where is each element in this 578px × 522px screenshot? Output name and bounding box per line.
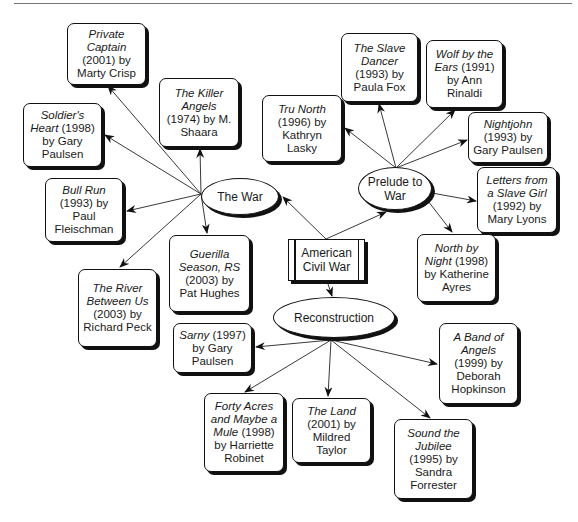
book-author: Gary Paulsen	[473, 144, 543, 156]
book-year: (1974) by M.	[167, 113, 232, 125]
book-soldiers-heart: Soldier's Heart (1998) by Gary Paulsen	[23, 103, 102, 167]
book-author: by Ann Rinaldi	[447, 74, 482, 99]
theme-label: The War	[217, 190, 263, 204]
book-year: (1996) by	[278, 116, 327, 128]
book-author: by Harriette Robinet	[214, 439, 273, 464]
book-year: (1992) by	[493, 200, 542, 212]
book-tru-north: Tru North (1996) by Kathryn Lasky	[262, 95, 342, 162]
book-title: The Killer Angels	[175, 87, 224, 112]
book-title: Bull Run	[62, 184, 105, 196]
book-year: (1998)	[62, 122, 95, 134]
book-title: The River Between Us	[86, 282, 148, 307]
book-sarny: Sarny (1997) by Gary Paulsen	[173, 323, 252, 373]
book-guerilla-season: Guerilla Season, RS (2003) by Pat Hughes	[169, 235, 250, 312]
center-topic-american-civil-war: American Civil War	[288, 239, 365, 281]
book-a-band-of-angels: A Band of Angels (1999) by Deborah Hopki…	[439, 323, 518, 404]
book-author: by Katherine Ayres	[424, 268, 489, 293]
book-year: (2001) by	[307, 418, 356, 430]
book-author: Shaara	[180, 126, 217, 138]
theme-prelude-to-war: Prelude to War	[358, 167, 432, 210]
book-author: by Gary Paulsen	[192, 342, 234, 367]
book-slave-dancer: The Slave Dancer (1993) by Paula Fox	[341, 33, 418, 102]
book-title: Sarny	[179, 329, 209, 341]
book-title: Letters from a Slave Girl	[486, 174, 547, 199]
book-title: Nightjohn	[484, 118, 533, 130]
book-private-captain: Private Captain (2001) by Marty Crisp	[67, 23, 146, 85]
book-title: Guerilla Season, RS	[179, 248, 240, 273]
book-author: Deborah Hopkinson	[451, 370, 505, 395]
book-nightjohn: Nightjohn (1993) by Gary Paulsen	[468, 112, 548, 163]
book-author: Paul Fleischman	[55, 210, 114, 235]
book-author: Mary Lyons	[487, 213, 546, 225]
book-letters-from-a-slave-girl: Letters from a Slave Girl (1992) by Mary…	[477, 167, 557, 233]
book-title: Sound the Jubilee	[407, 427, 459, 452]
book-year: (1993) by	[484, 131, 533, 143]
book-wolf-by-the-ears: Wolf by the Ears (1991) by Ann Rinaldi	[426, 40, 503, 108]
book-year: (1998)	[455, 255, 488, 267]
book-title: The Slave Dancer	[354, 42, 406, 67]
theme-label: Reconstruction	[294, 311, 374, 325]
book-author: Mildred Taylor	[313, 431, 351, 456]
center-label-line2: Civil War	[301, 260, 352, 274]
book-year: (1993) by	[355, 68, 404, 80]
book-killer-angels: The Killer Angels (1974) by M. Shaara	[159, 78, 239, 147]
book-forty-acres: Forty Acres and Maybe a Mule (1998) by H…	[204, 393, 284, 472]
book-year: (1999) by	[454, 357, 503, 369]
book-title: A Band of Angels	[453, 331, 503, 356]
book-year: (1993) by	[60, 197, 109, 209]
book-author: Paula Fox	[354, 81, 406, 93]
theme-the-war: The War	[201, 178, 279, 215]
theme-reconstruction: Reconstruction	[273, 297, 395, 338]
book-year: (2003) by	[185, 274, 234, 286]
book-author: Kathryn Lasky	[282, 129, 322, 154]
center-label-line1: American	[301, 246, 352, 260]
book-year: (1998)	[241, 426, 274, 438]
book-author: by Gary Paulsen	[42, 135, 84, 160]
book-year: (1991)	[461, 61, 494, 73]
book-year: (1995) by	[409, 453, 458, 465]
book-bull-run: Bull Run (1993) by Paul Fleischman	[45, 178, 123, 242]
book-author: Marty Crisp	[77, 67, 136, 79]
theme-label-line2: War	[368, 189, 423, 203]
book-title: Private Captain	[87, 28, 127, 53]
book-author: Richard Peck	[83, 321, 151, 333]
book-river-between-us: The River Between Us (2003) by Richard P…	[78, 269, 157, 347]
book-author: Pat Hughes	[179, 287, 239, 299]
book-year: (1997)	[213, 329, 246, 341]
theme-label-line1: Prelude to	[368, 175, 423, 189]
book-title: Tru North	[278, 103, 326, 115]
book-north-by-night: North by Night (1998) by Katherine Ayres	[417, 234, 496, 302]
book-title: The Land	[307, 405, 356, 417]
book-year: (2001) by	[82, 54, 131, 66]
book-author: Sandra Forrester	[410, 466, 457, 491]
book-sound-the-jubilee: Sound the Jubilee (1995) by Sandra Forre…	[394, 419, 473, 499]
book-year: (2003) by	[93, 308, 142, 320]
book-the-land: The Land (2001) by Mildred Taylor	[292, 398, 371, 463]
